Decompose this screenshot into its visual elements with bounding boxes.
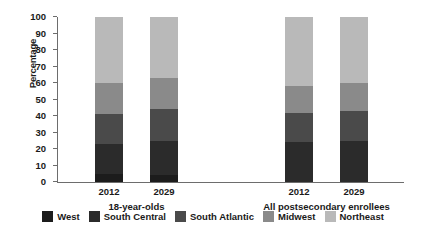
chart-legend: WestSouth CentralSouth AtlanticMidwestNo… (0, 211, 426, 222)
y-tick: 80 (53, 49, 57, 50)
x-tick-label: 2029 (319, 186, 389, 197)
y-tick-label: 30 (35, 126, 46, 137)
y-tick: 50 (53, 99, 57, 100)
bar-segment[interactable] (95, 114, 123, 144)
bar-segment[interactable] (95, 45, 123, 83)
y-tick-label: 100 (30, 11, 46, 22)
bar-segment[interactable] (285, 17, 313, 52)
legend-item[interactable]: South Central (89, 211, 166, 222)
legend-item[interactable]: West (42, 211, 80, 222)
bar-segment[interactable] (150, 17, 178, 45)
bar-segment[interactable] (285, 142, 313, 182)
y-tick: 20 (53, 148, 57, 149)
y-tick: 70 (53, 66, 57, 67)
y-tick-label: 80 (35, 44, 46, 55)
y-tick: 40 (53, 115, 57, 116)
legend-item[interactable]: South Atlantic (175, 211, 254, 222)
bar-segment[interactable] (95, 144, 123, 174)
legend-label: West (57, 211, 80, 222)
bar-segment[interactable] (150, 45, 178, 78)
bar-stack[interactable] (285, 17, 313, 182)
bar-segment[interactable] (150, 175, 178, 182)
y-tick: 0 (53, 181, 57, 182)
y-tick: 60 (53, 82, 57, 83)
legend-label: Northeast (340, 211, 384, 222)
legend-item[interactable]: Midwest (263, 211, 315, 222)
bar-stack[interactable] (340, 17, 368, 182)
bar-stack[interactable] (150, 17, 178, 182)
bar-segment[interactable] (95, 17, 123, 45)
bar-segment[interactable] (150, 78, 178, 109)
legend-item[interactable]: Northeast (325, 211, 384, 222)
y-axis-line (57, 17, 58, 183)
y-tick-label: 0 (41, 176, 46, 187)
bar-segment[interactable] (285, 86, 313, 112)
y-tick: 100 (53, 16, 57, 17)
legend-label: South Central (104, 211, 166, 222)
legend-label: South Atlantic (190, 211, 254, 222)
bar-segment[interactable] (340, 17, 368, 50)
y-tick-label: 70 (35, 60, 46, 71)
bar-segment[interactable] (95, 174, 123, 182)
legend-swatch-icon (89, 211, 100, 222)
y-tick-label: 20 (35, 143, 46, 154)
y-tick-label: 10 (35, 159, 46, 170)
y-tick: 10 (53, 165, 57, 166)
bar-segment[interactable] (95, 83, 123, 114)
x-tick-label: 2029 (129, 186, 199, 197)
legend-swatch-icon (42, 211, 53, 222)
bar-segment[interactable] (340, 141, 368, 182)
y-tick-label: 50 (35, 93, 46, 104)
bar-segment[interactable] (340, 83, 368, 111)
bar-segment[interactable] (285, 113, 313, 143)
y-tick: 30 (53, 132, 57, 133)
bar-segment[interactable] (340, 111, 368, 141)
legend-swatch-icon (325, 211, 336, 222)
bar-segment[interactable] (150, 141, 178, 176)
y-tick-label: 60 (35, 77, 46, 88)
y-tick-label: 90 (35, 27, 46, 38)
y-tick: 90 (53, 33, 57, 34)
bar-segment[interactable] (150, 109, 178, 140)
bar-segment[interactable] (285, 52, 313, 87)
legend-swatch-icon (263, 211, 274, 222)
bar-segment[interactable] (340, 50, 368, 83)
x-axis-line (57, 182, 404, 183)
legend-label: Midwest (278, 211, 315, 222)
plot-area: 0102030405060708090100 2012202920122029 … (57, 17, 404, 183)
y-tick-label: 40 (35, 110, 46, 121)
stacked-bar-chart: Percentage 0102030405060708090100 201220… (0, 0, 426, 241)
bar-stack[interactable] (95, 17, 123, 182)
legend-swatch-icon (175, 211, 186, 222)
